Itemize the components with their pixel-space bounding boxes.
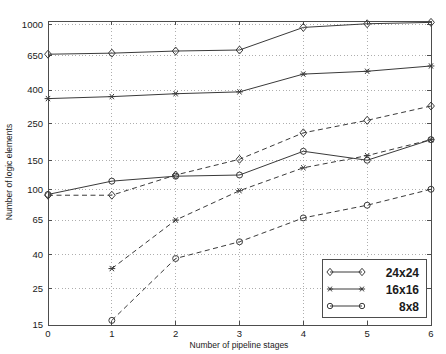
x-tick-label: 4 (301, 328, 306, 339)
series-16x16-dashed (108, 137, 434, 271)
y-tick-label: 25 (32, 283, 43, 294)
x-tick-label: 1 (109, 328, 114, 339)
y-tick-label: 15 (32, 319, 43, 330)
x-tick-label: 0 (45, 328, 50, 339)
chart-figure: 1525406510015025040065010000123456 24x24… (0, 0, 446, 354)
y-tick-label: 250 (27, 118, 43, 129)
x-tick-label: 2 (173, 328, 178, 339)
y-tick-label: 65 (32, 214, 43, 225)
legend-label: 16x16 (386, 283, 420, 297)
y-tick-label: 1000 (22, 19, 43, 30)
y-tick-label: 40 (32, 249, 43, 260)
y-axis-title: Number of logic elements (4, 124, 14, 220)
y-tick-label: 650 (27, 50, 43, 61)
y-tick-label: 100 (27, 184, 43, 195)
x-tick-label: 6 (428, 328, 433, 339)
y-tick-label: 150 (27, 155, 43, 166)
legend-label: 8x8 (399, 300, 419, 314)
x-tick-label: 5 (365, 328, 370, 339)
y-tick-label: 400 (27, 84, 43, 95)
legend: 24x2416x168x8 (322, 259, 426, 317)
x-axis-title: Number of pipeline stages (190, 340, 289, 350)
logic-elements-line-chart: 1525406510015025040065010000123456 24x24… (0, 0, 446, 354)
legend-label: 24x24 (386, 266, 420, 280)
x-tick-label: 3 (237, 328, 242, 339)
